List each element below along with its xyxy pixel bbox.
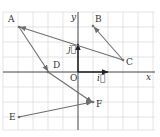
point-D bbox=[47, 71, 50, 74]
unit-j-label: j⃗ bbox=[68, 45, 76, 54]
grid bbox=[3, 12, 155, 130]
point-C bbox=[122, 59, 125, 62]
label-point-F: F bbox=[96, 100, 102, 109]
unit-i-label: i⃗ bbox=[97, 74, 105, 83]
axes bbox=[3, 12, 155, 130]
point-A bbox=[18, 26, 21, 29]
vector-AD bbox=[19, 27, 48, 71]
point-B bbox=[92, 25, 95, 28]
label-point-B: B bbox=[95, 15, 102, 24]
vector-EF bbox=[19, 102, 92, 117]
origin-label: O bbox=[70, 74, 77, 83]
y-axis-label: y bbox=[71, 13, 76, 22]
x-axis-label: x bbox=[146, 73, 151, 82]
label-point-E: E bbox=[9, 113, 16, 122]
point-F bbox=[92, 101, 95, 104]
label-point-C: C bbox=[126, 58, 133, 67]
vector-diagram bbox=[0, 0, 160, 137]
point-E bbox=[18, 116, 21, 119]
label-point-A: A bbox=[8, 15, 15, 24]
label-point-D: D bbox=[53, 61, 60, 70]
